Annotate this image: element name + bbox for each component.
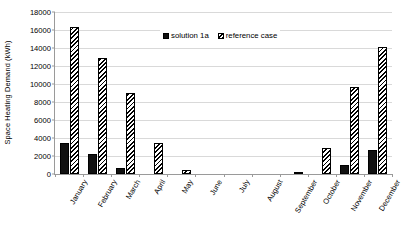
bar-group xyxy=(280,12,308,174)
x-tick-label: October xyxy=(321,178,342,206)
x-tick-mark xyxy=(195,174,196,177)
x-tick-mark xyxy=(167,174,168,177)
y-tick-label: 8000 xyxy=(34,98,51,107)
x-tick-label: July xyxy=(237,178,252,194)
y-tick-label: 2000 xyxy=(34,152,51,161)
y-tick-label: 6000 xyxy=(34,116,51,125)
y-tick-label: 18000 xyxy=(30,8,51,17)
x-tick-label: November xyxy=(349,178,374,213)
legend-swatch-reference-icon xyxy=(218,33,224,39)
chart-legend: solution 1a reference case xyxy=(160,30,280,41)
bar-group xyxy=(308,12,336,174)
x-tick-mark xyxy=(364,174,365,177)
bar-solution xyxy=(88,154,97,174)
y-tick-label: 16000 xyxy=(30,26,51,35)
bar-reference xyxy=(294,172,303,174)
bar-reference xyxy=(154,143,163,174)
x-tick-mark xyxy=(83,174,84,177)
x-tick-label: May xyxy=(180,178,195,195)
y-tick-label: 0 xyxy=(47,170,51,179)
legend-label-solution: solution 1a xyxy=(171,31,209,40)
legend-entry-reference: reference case xyxy=(218,31,278,40)
x-tick-label: June xyxy=(208,178,224,197)
x-tick-mark xyxy=(55,174,56,177)
bar-reference xyxy=(70,27,79,174)
legend-label-reference: reference case xyxy=(226,31,278,40)
y-axis-title-text: Space Heating Demand (kWh) xyxy=(3,40,12,144)
bar-reference xyxy=(98,58,107,174)
x-tick-label: January xyxy=(68,178,89,206)
x-tick-label: March xyxy=(124,178,142,201)
x-tick-label: February xyxy=(96,178,119,209)
x-tick-label: April xyxy=(152,178,167,196)
x-tick-mark xyxy=(252,174,253,177)
y-axis-title: Space Heating Demand (kWh) xyxy=(0,0,14,185)
x-tick-mark xyxy=(392,174,393,177)
bar-reference xyxy=(378,47,387,174)
x-tick-mark xyxy=(139,174,140,177)
x-axis-labels: JanuaryFebruaryMarchAprilMayJuneJulyAugu… xyxy=(54,178,391,230)
x-tick-label: September xyxy=(293,178,319,215)
x-tick-label: August xyxy=(265,178,285,203)
bar-reference xyxy=(322,148,331,174)
bar-group xyxy=(55,12,83,174)
bar-solution xyxy=(60,143,69,174)
x-tick-mark xyxy=(111,174,112,177)
legend-entry-solution: solution 1a xyxy=(163,31,209,40)
bar-solution xyxy=(340,165,349,174)
bar-reference xyxy=(350,87,359,174)
y-tick-label: 14000 xyxy=(30,44,51,53)
x-tick-mark xyxy=(224,174,225,177)
y-tick-label: 10000 xyxy=(30,80,51,89)
x-tick-label: December xyxy=(377,178,402,213)
y-tick-label: 12000 xyxy=(30,62,51,71)
bar-group xyxy=(83,12,111,174)
bar-group xyxy=(111,12,139,174)
bar-reference xyxy=(182,170,191,175)
y-tick-label: 4000 xyxy=(34,134,51,143)
x-tick-mark xyxy=(280,174,281,177)
x-tick-mark xyxy=(308,174,309,177)
bar-group xyxy=(336,12,364,174)
legend-swatch-solution-icon xyxy=(163,33,169,39)
bar-solution xyxy=(368,150,377,174)
bar-group xyxy=(364,12,392,174)
bar-solution xyxy=(116,168,125,174)
x-tick-mark xyxy=(336,174,337,177)
bar-reference xyxy=(126,93,135,174)
